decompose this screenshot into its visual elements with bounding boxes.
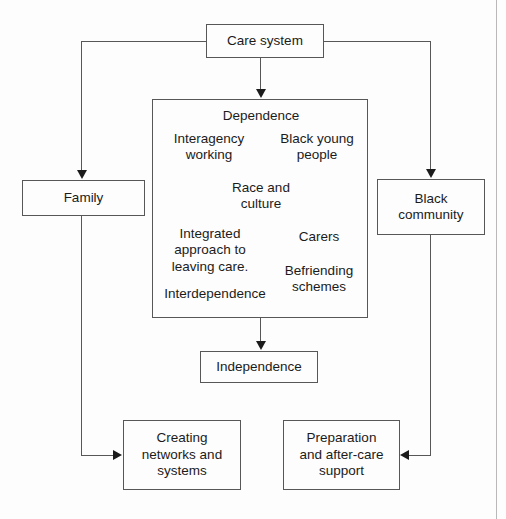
node-preparation-and-after-care-support[interactable]: Preparation and after-care support bbox=[283, 420, 400, 490]
connector-care-to-black-community-vertical bbox=[430, 41, 431, 170]
connector-black-community-to-preparation-vertical bbox=[430, 235, 431, 456]
cluster-label-integrated-approach: Integrated approach to leaving care. bbox=[155, 226, 265, 275]
connector-family-to-creating-networks-vertical bbox=[81, 216, 82, 456]
connector-care-to-family-horizontal bbox=[81, 41, 207, 42]
cluster-label-carers: Carers bbox=[273, 229, 365, 245]
diagram-canvas: Care system Family Black community Depen… bbox=[0, 0, 506, 519]
arrowhead-care-to-family bbox=[77, 170, 87, 179]
node-creating-networks-and-systems[interactable]: Creating networks and systems bbox=[123, 420, 241, 490]
cluster-label-befriending-schemes: Befriending schemes bbox=[269, 263, 369, 296]
connector-care-to-black-community-horizontal bbox=[324, 41, 431, 42]
node-care-system[interactable]: Care system bbox=[206, 24, 324, 58]
cluster-label-black-young-people: Black young people bbox=[265, 131, 369, 164]
arrowhead-dependence-to-independence bbox=[256, 341, 266, 350]
cluster-label-interdependence: Interdependence bbox=[153, 286, 277, 302]
arrowhead-care-to-dependence bbox=[256, 89, 266, 98]
arrowhead-black-community-to-preparation bbox=[400, 450, 409, 460]
node-independence[interactable]: Independence bbox=[200, 351, 318, 383]
cluster-label-interagency-working: Interagency working bbox=[157, 131, 261, 164]
node-black-community[interactable]: Black community bbox=[377, 179, 485, 235]
connector-dependence-to-independence bbox=[260, 318, 261, 343]
cluster-label-race-and-culture: Race and culture bbox=[205, 180, 317, 213]
connector-care-to-family-vertical bbox=[81, 41, 82, 171]
node-dependence-cluster[interactable]: Dependence Interagency working Black you… bbox=[152, 99, 368, 318]
cluster-title-dependence: Dependence bbox=[153, 108, 369, 124]
node-family[interactable]: Family bbox=[22, 180, 145, 216]
page-edge-rule bbox=[496, 0, 497, 519]
connector-care-to-dependence bbox=[260, 58, 261, 91]
connector-family-to-creating-networks-horizontal bbox=[81, 455, 115, 456]
connector-black-community-to-preparation-horizontal bbox=[408, 455, 431, 456]
arrowhead-family-to-creating-networks bbox=[113, 450, 122, 460]
arrowhead-care-to-black-community bbox=[426, 169, 436, 178]
